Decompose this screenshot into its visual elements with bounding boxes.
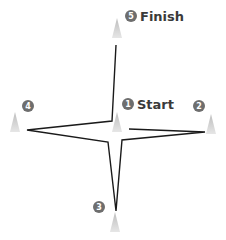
badge-number: 5 xyxy=(128,12,134,21)
badge-number: 3 xyxy=(96,203,102,212)
cone-label: Start xyxy=(137,97,174,112)
cone-1: 1Start xyxy=(112,97,174,132)
cone-drill-diagram: 1Start2345Finish xyxy=(0,0,226,240)
cone-icon xyxy=(112,112,122,132)
badge-number: 4 xyxy=(25,102,31,111)
cone-icon xyxy=(110,212,120,232)
cone-4: 4 xyxy=(10,100,34,132)
cone-icon xyxy=(10,112,20,132)
cone-5: 5Finish xyxy=(112,9,184,38)
cone-2: 2 xyxy=(193,100,216,134)
cone-label: Finish xyxy=(140,9,184,24)
cone-icon xyxy=(112,18,122,38)
badge-number: 1 xyxy=(125,100,131,109)
badge-number: 2 xyxy=(196,102,202,111)
cone-icon xyxy=(206,114,216,134)
